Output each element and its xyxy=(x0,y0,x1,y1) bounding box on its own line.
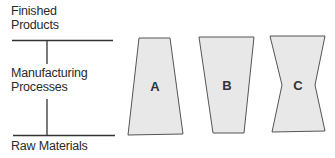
shape-c: C xyxy=(270,36,325,132)
shape-a-label: A xyxy=(150,79,160,94)
shape-b-label: B xyxy=(222,78,231,93)
shape-a: A xyxy=(128,38,183,135)
diagram-canvas: A B C xyxy=(0,0,335,158)
shape-b: B xyxy=(199,37,254,133)
shape-c-label: C xyxy=(293,78,303,93)
